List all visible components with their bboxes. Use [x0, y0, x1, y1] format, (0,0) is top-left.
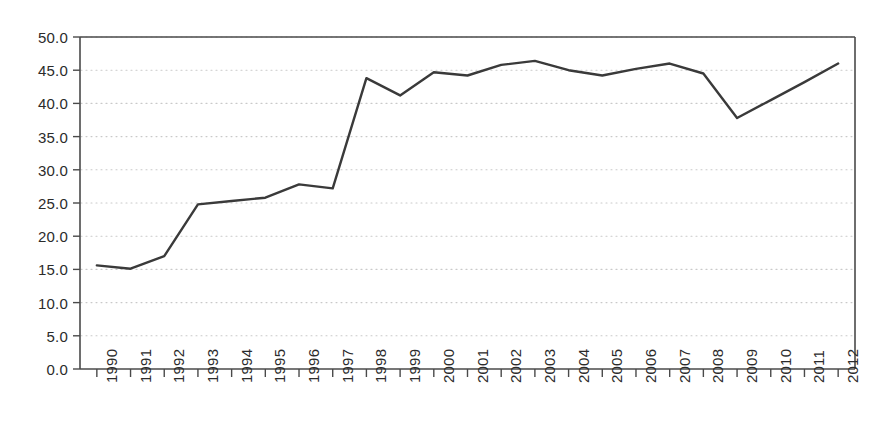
x-tick-label: 1993 — [204, 349, 221, 383]
x-tick-label: 2004 — [575, 349, 592, 383]
x-tick-label: 1994 — [238, 349, 255, 383]
x-tick-label: 2012 — [844, 349, 861, 383]
x-tick-label: 1998 — [372, 349, 389, 383]
x-tick-label: 1997 — [339, 349, 356, 383]
x-tick-label: 2002 — [507, 349, 524, 383]
x-tick-label: 1990 — [103, 349, 120, 383]
x-tick-label: 2000 — [440, 349, 457, 383]
x-tick-label: 2007 — [676, 349, 693, 383]
x-tick-label: 2001 — [474, 349, 491, 383]
chart-figure: 0.05.010.015.020.025.030.035.040.045.050… — [0, 0, 876, 448]
x-tick-label: 2009 — [743, 349, 760, 383]
x-tick-label: 2011 — [810, 350, 827, 383]
x-tick-label: 1999 — [406, 349, 423, 383]
x-tick-label: 1995 — [271, 349, 288, 383]
x-tick-label: 1996 — [305, 349, 322, 383]
x-tick-label: 2008 — [709, 349, 726, 383]
x-tick-label: 1991 — [137, 349, 154, 383]
x-tick-label: 2003 — [541, 349, 558, 383]
x-tick-label: 2005 — [608, 349, 625, 383]
x-tick-label: 1992 — [170, 349, 187, 383]
x-axis-tick-labels: 1990199119921993199419951996199719981999… — [0, 0, 876, 448]
x-tick-label: 2006 — [642, 349, 659, 383]
x-tick-label: 2010 — [777, 349, 794, 383]
